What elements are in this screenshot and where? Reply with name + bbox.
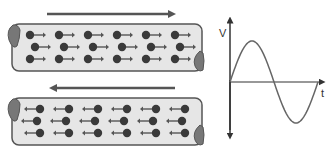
voltage-time-graph: V t: [219, 20, 324, 136]
electron: [60, 43, 68, 51]
wire-end-left: [8, 25, 20, 47]
electron: [36, 105, 44, 113]
electron: [118, 43, 126, 51]
electron: [176, 43, 184, 51]
electron: [26, 55, 34, 63]
electron: [62, 117, 70, 125]
x-axis-label: t: [321, 87, 324, 99]
wire-end-left: [8, 99, 20, 121]
electron: [84, 31, 92, 39]
wire-top: [8, 14, 204, 71]
electron: [94, 129, 102, 137]
ac-current-diagram: V t: [0, 0, 332, 154]
electron: [55, 31, 63, 39]
electron: [123, 129, 131, 137]
electron: [84, 55, 92, 63]
electron: [113, 55, 121, 63]
electron: [181, 129, 189, 137]
electron: [36, 129, 44, 137]
electron: [65, 105, 73, 113]
electron: [113, 31, 121, 39]
electron: [152, 105, 160, 113]
electron: [142, 55, 150, 63]
electron: [149, 117, 157, 125]
electron: [33, 117, 41, 125]
electron: [147, 43, 155, 51]
electron: [152, 129, 160, 137]
electron: [171, 31, 179, 39]
electron: [55, 55, 63, 63]
electron: [123, 105, 131, 113]
y-axis-label: V: [219, 27, 227, 39]
electron: [94, 105, 102, 113]
electron: [181, 105, 189, 113]
electron: [31, 43, 39, 51]
electron: [26, 31, 34, 39]
electron: [65, 129, 73, 137]
electron: [89, 43, 97, 51]
electron: [171, 55, 179, 63]
wire-bottom: [8, 88, 204, 145]
electron: [142, 31, 150, 39]
electron: [91, 117, 99, 125]
electron: [178, 117, 186, 125]
electron: [120, 117, 128, 125]
